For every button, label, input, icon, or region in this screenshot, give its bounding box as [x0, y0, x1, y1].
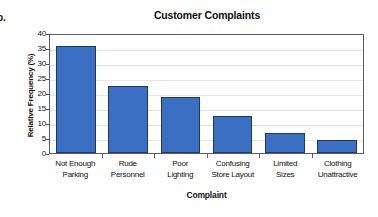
y-tick-label-15: 15 [29, 105, 46, 113]
y-axis-tick-labels: 4035302520151050 [26, 34, 46, 154]
list-item-marker: b. [0, 13, 6, 23]
bar-slot [259, 35, 311, 153]
x-category-label-line: Poor [172, 159, 188, 168]
bar-confusing-store-layout [213, 116, 253, 153]
x-category-label-line: Lighting [154, 170, 206, 181]
x-category-label-poor-lighting: PoorLighting [154, 159, 206, 180]
bar-slot [311, 35, 363, 153]
x-category-label-clothing-unattractive: ClothingUnattractive [311, 159, 363, 180]
x-category-label-line: Clothing [324, 159, 351, 168]
customer-complaints-bar-chart: b. Customer Complaints Relative Frequenc… [0, 0, 378, 217]
x-category-label-line: Confusing [216, 159, 250, 168]
x-category-label-not-enough-parking: Not EnoughParking [49, 159, 101, 180]
bar-slot [50, 35, 102, 153]
x-category-label-line: Parking [49, 170, 101, 181]
x-category-label-confusing-store-layout: ConfusingStore Layout [206, 159, 258, 180]
x-axis-title: Complaint [49, 190, 364, 200]
x-axis-tick-marks [49, 154, 364, 158]
bar-clothing-unattractive [317, 140, 357, 153]
x-tick-mark-2 [154, 154, 155, 158]
x-category-label-line: Rude [119, 159, 137, 168]
y-tick-label-20: 20 [29, 90, 46, 98]
x-tick-mark-3 [207, 154, 208, 158]
bar-not-enough-parking [56, 46, 96, 153]
y-tick-label-35: 35 [29, 45, 46, 53]
chart-title: Customer Complaints [48, 10, 366, 22]
y-tick-label-5: 5 [29, 135, 46, 143]
x-category-label-line: Not Enough [55, 159, 95, 168]
bar-slot [154, 35, 206, 153]
bar-limited-sizes [265, 133, 305, 153]
x-tick-mark-4 [259, 154, 260, 158]
bar-poor-lighting [161, 97, 201, 153]
x-category-label-line: Limited [273, 159, 297, 168]
y-tick-label-10: 10 [29, 120, 46, 128]
y-tick-label-40: 40 [29, 30, 46, 38]
x-category-label-limited-sizes: LimitedSizes [259, 159, 311, 180]
bar-series [50, 35, 363, 153]
bar-rude-personnel [108, 86, 148, 153]
bar-slot [102, 35, 154, 153]
y-tick-label-25: 25 [29, 75, 46, 83]
x-tick-mark-5 [312, 154, 313, 158]
x-axis-category-labels: Not EnoughParkingRudePersonnelPoorLighti… [49, 159, 364, 180]
bar-slot [206, 35, 258, 153]
y-tick-label-30: 30 [29, 60, 46, 68]
plot-area [49, 34, 364, 154]
x-category-label-line: Sizes [259, 170, 311, 181]
x-category-label-line: Store Layout [206, 170, 258, 181]
x-category-label-rude-personnel: RudePersonnel [101, 159, 153, 180]
x-category-label-line: Unattractive [311, 170, 363, 181]
x-category-label-line: Personnel [101, 170, 153, 181]
x-tick-mark-1 [102, 154, 103, 158]
y-tick-label-0: 0 [29, 150, 46, 158]
